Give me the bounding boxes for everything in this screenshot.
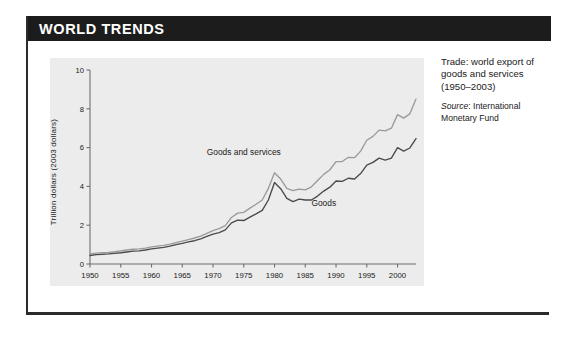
x-axis-tick-label: 1970 [204, 271, 222, 280]
caption-title: Trade: world export of goods and service… [441, 56, 551, 93]
x-axis-tick-label: 2000 [389, 271, 407, 280]
caption-source-word: Source [441, 101, 468, 111]
x-axis-tick-label: 1965 [174, 271, 192, 280]
x-axis-tick-label: 1995 [358, 271, 376, 280]
chart-axes: 0246810195019551960196519701975198019851… [76, 66, 416, 280]
series-label: Goods and services [207, 147, 281, 157]
x-axis-tick-label: 1980 [266, 271, 284, 280]
card-header: WORLD TRENDS [28, 16, 551, 41]
chart-caption: Trade: world export of goods and service… [441, 56, 551, 124]
y-axis-tick-label: 4 [80, 182, 84, 191]
line-chart: 0246810195019551960196519701975198019851… [50, 58, 424, 286]
x-axis-tick-label: 1975 [235, 271, 253, 280]
y-axis-tick-label: 10 [76, 66, 84, 75]
series-label: Goods [311, 198, 336, 208]
page-title: WORLD TRENDS [39, 21, 165, 37]
chart-series-labels: Goods and servicesGoods [207, 147, 336, 207]
series-line [90, 99, 416, 254]
y-axis-tick-label: 6 [80, 143, 84, 152]
world-trends-card: WORLD TRENDS 024681019501955196019651970… [26, 16, 549, 315]
y-axis-tick-label: 2 [80, 221, 84, 230]
x-axis-tick-label: 1960 [143, 271, 161, 280]
x-axis-tick-label: 1985 [297, 271, 315, 280]
y-axis-tick-label: 0 [80, 260, 84, 269]
x-axis-tick-label: 1950 [81, 271, 99, 280]
caption-source: Source: International Monetary Fund [441, 101, 551, 124]
chart-plot-area: 0246810195019551960196519701975198019851… [50, 58, 424, 286]
x-axis-tick-label: 1990 [327, 271, 345, 280]
x-axis-tick-label: 1955 [112, 271, 130, 280]
chart-series [90, 99, 416, 255]
y-axis-tick-label: 8 [80, 105, 84, 114]
screenshot-root: WORLD TRENDS 024681019501955196019651970… [0, 0, 575, 346]
